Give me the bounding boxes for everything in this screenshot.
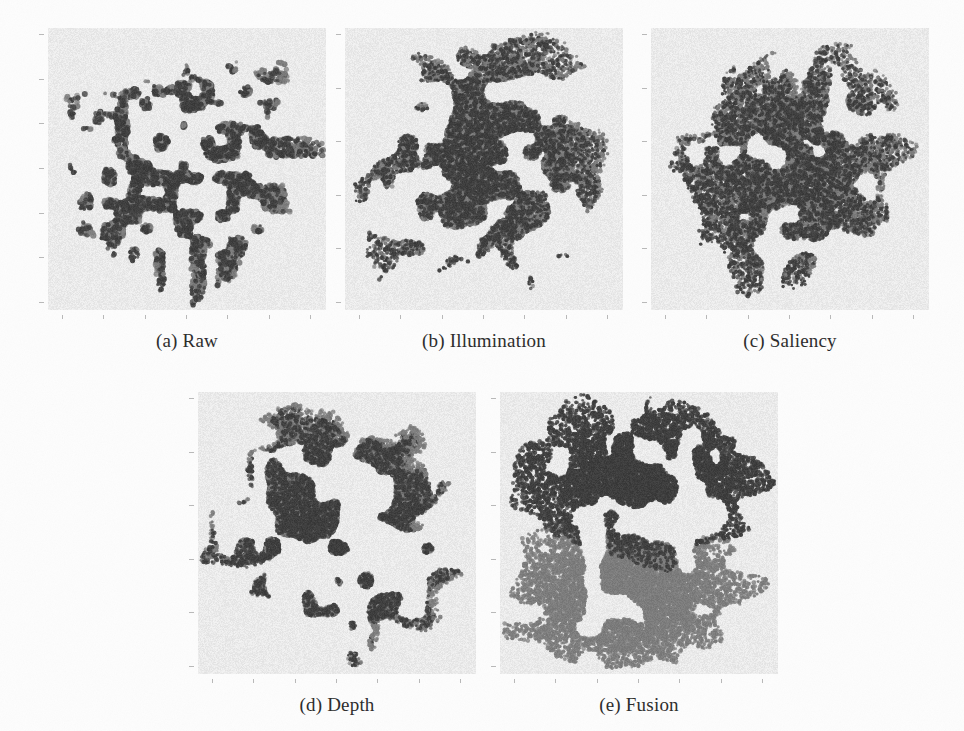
y-axis-ticks-raw — [37, 28, 48, 310]
axis-tick — [336, 88, 341, 89]
y-axis-ticks-illumination — [334, 28, 345, 310]
scatter-canvas-saliency — [651, 28, 929, 310]
axis-tick — [491, 559, 496, 560]
axis-tick — [789, 315, 790, 319]
panel-caption-depth: (d) Depth — [198, 694, 476, 716]
scatter-plot-raw — [48, 28, 326, 310]
axis-tick — [145, 315, 146, 319]
axis-tick — [762, 679, 763, 683]
axis-tick — [39, 34, 44, 35]
axis-tick — [491, 398, 496, 399]
axis-tick — [336, 302, 341, 303]
y-axis-ticks-fusion — [489, 392, 500, 674]
panel-caption-illumination: (b) Illumination — [345, 330, 623, 352]
scatter-plot-depth — [198, 392, 476, 674]
axis-tick — [706, 315, 707, 319]
axis-tick — [483, 315, 484, 319]
axis-tick — [400, 315, 401, 319]
axis-tick — [39, 213, 44, 214]
axis-tick — [642, 141, 647, 142]
axis-tick — [227, 315, 228, 319]
panel-saliency — [651, 28, 929, 310]
axis-tick — [336, 195, 341, 196]
axis-tick — [638, 679, 639, 683]
axis-tick — [39, 257, 44, 258]
axis-tick — [419, 679, 420, 683]
axis-tick — [721, 679, 722, 683]
axis-tick — [679, 679, 680, 683]
tsne-figure: (a) Raw(b) Illumination(c) Saliency(d) D… — [0, 0, 964, 731]
axis-tick — [514, 679, 515, 683]
y-axis-ticks-saliency — [640, 28, 651, 310]
axis-tick — [189, 452, 194, 453]
axis-tick — [269, 315, 270, 319]
axis-tick — [491, 666, 496, 667]
scatter-canvas-raw — [48, 28, 326, 310]
axis-tick — [642, 88, 647, 89]
axis-tick — [566, 315, 567, 319]
x-axis-ticks-saliency — [651, 315, 929, 325]
axis-tick — [555, 679, 556, 683]
axis-tick — [442, 315, 443, 319]
axis-tick — [377, 679, 378, 683]
axis-tick — [253, 679, 254, 683]
axis-tick — [62, 315, 63, 319]
panel-depth — [198, 392, 476, 674]
axis-tick — [189, 559, 194, 560]
axis-tick — [310, 315, 311, 319]
axis-tick — [189, 612, 194, 613]
panel-caption-fusion: (e) Fusion — [500, 694, 778, 716]
axis-tick — [336, 34, 341, 35]
scatter-canvas-fusion — [500, 392, 778, 674]
scatter-plot-fusion — [500, 392, 778, 674]
axis-tick — [189, 398, 194, 399]
scatter-plot-illumination — [345, 28, 623, 310]
panel-illumination — [345, 28, 623, 310]
axis-tick — [336, 141, 341, 142]
axis-tick — [491, 452, 496, 453]
axis-tick — [524, 315, 525, 319]
axis-tick — [642, 34, 647, 35]
axis-tick — [39, 123, 44, 124]
axis-tick — [491, 612, 496, 613]
axis-tick — [872, 315, 873, 319]
axis-tick — [212, 679, 213, 683]
y-axis-ticks-depth — [187, 392, 198, 674]
panel-caption-saliency: (c) Saliency — [651, 330, 929, 352]
x-axis-ticks-fusion — [500, 679, 778, 689]
axis-tick — [642, 248, 647, 249]
panel-raw — [48, 28, 326, 310]
axis-tick — [607, 315, 608, 319]
axis-tick — [597, 679, 598, 683]
scatter-canvas-illumination — [345, 28, 623, 310]
axis-tick — [748, 315, 749, 319]
axis-tick — [189, 505, 194, 506]
axis-tick — [359, 315, 360, 319]
axis-tick — [103, 315, 104, 319]
x-axis-ticks-illumination — [345, 315, 623, 325]
axis-tick — [39, 79, 44, 80]
axis-tick — [39, 302, 44, 303]
axis-tick — [336, 248, 341, 249]
axis-tick — [186, 315, 187, 319]
axis-tick — [39, 168, 44, 169]
panel-caption-raw: (a) Raw — [48, 330, 326, 352]
panel-fusion — [500, 392, 778, 674]
scatter-plot-saliency — [651, 28, 929, 310]
axis-tick — [295, 679, 296, 683]
axis-tick — [665, 315, 666, 319]
axis-tick — [642, 195, 647, 196]
axis-tick — [913, 315, 914, 319]
axis-tick — [460, 679, 461, 683]
axis-tick — [189, 666, 194, 667]
axis-tick — [491, 505, 496, 506]
scatter-canvas-depth — [198, 392, 476, 674]
axis-tick — [830, 315, 831, 319]
axis-tick — [336, 679, 337, 683]
x-axis-ticks-raw — [48, 315, 326, 325]
x-axis-ticks-depth — [198, 679, 476, 689]
axis-tick — [642, 302, 647, 303]
